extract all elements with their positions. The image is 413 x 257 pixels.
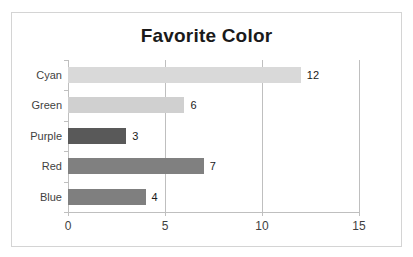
bar-value-label-cyan: 12 bbox=[307, 67, 319, 83]
bar-row: 3 bbox=[68, 121, 359, 151]
x-axis-tick-label-15: 15 bbox=[344, 219, 374, 233]
y-axis-tick bbox=[64, 182, 68, 183]
bar-green[interactable] bbox=[68, 97, 184, 113]
bar-red[interactable] bbox=[68, 158, 204, 174]
bar-row: 12 bbox=[68, 60, 359, 90]
y-axis-tick bbox=[64, 151, 68, 152]
chart-title: Favorite Color bbox=[12, 25, 401, 47]
bar-cyan[interactable] bbox=[68, 67, 301, 83]
y-axis-tick bbox=[64, 121, 68, 122]
x-axis-tick-15 bbox=[359, 212, 360, 216]
x-axis-tick-10 bbox=[262, 212, 263, 216]
y-axis-tick bbox=[64, 60, 68, 61]
y-axis-category-labels: CyanGreenPurpleRedBlue bbox=[12, 60, 62, 212]
category-label-blue: Blue bbox=[40, 182, 62, 212]
bar-row: 6 bbox=[68, 90, 359, 120]
bar-value-label-purple: 3 bbox=[132, 128, 138, 144]
bar-row: 7 bbox=[68, 151, 359, 181]
y-axis-tick bbox=[64, 90, 68, 91]
x-axis-tick-label-10: 10 bbox=[247, 219, 277, 233]
category-label-green: Green bbox=[31, 90, 62, 120]
x-axis-tick-0 bbox=[68, 212, 69, 216]
bar-blue[interactable] bbox=[68, 189, 146, 205]
bar-row: 4 bbox=[68, 182, 359, 212]
x-axis-tick-5 bbox=[165, 212, 166, 216]
chart-frame: Favorite Color CyanGreenPurpleRedBlue 12… bbox=[11, 12, 402, 247]
category-label-cyan: Cyan bbox=[36, 60, 62, 90]
bar-value-label-green: 6 bbox=[190, 97, 196, 113]
category-label-purple: Purple bbox=[30, 121, 62, 151]
gridline-x-15 bbox=[359, 60, 360, 212]
x-axis-tick-label-0: 0 bbox=[53, 219, 83, 233]
plot-area: 126374 bbox=[68, 60, 359, 212]
bar-value-label-blue: 4 bbox=[152, 189, 158, 205]
bar-purple[interactable] bbox=[68, 128, 126, 144]
category-label-red: Red bbox=[42, 151, 62, 181]
x-axis-tick-label-5: 5 bbox=[150, 219, 180, 233]
x-axis-line bbox=[68, 212, 360, 213]
bar-value-label-red: 7 bbox=[210, 158, 216, 174]
